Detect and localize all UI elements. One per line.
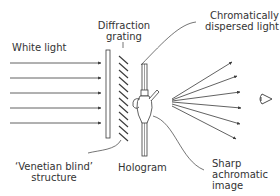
label-chromatic-line1: Chromatically bbox=[199, 10, 279, 21]
label-venetian-line1: ‘Venetian blind’ bbox=[14, 161, 94, 172]
label-white-light: White light bbox=[12, 42, 66, 53]
label-chromatic-line2: dispersed light bbox=[199, 21, 279, 32]
dispersed-rays bbox=[172, 62, 241, 139]
label-venetian-line2: structure bbox=[14, 172, 94, 183]
label-venetian-blind: ‘Venetian blind’ structure bbox=[14, 161, 94, 183]
label-hologram: Hologram bbox=[118, 162, 167, 173]
label-diffraction-line1: Diffraction bbox=[94, 20, 154, 31]
white-light-rays bbox=[10, 63, 101, 123]
label-diffraction-grating: Diffraction grating bbox=[94, 20, 154, 42]
diffraction-grating-plate bbox=[106, 50, 110, 138]
label-sharp-line3: image bbox=[212, 180, 268, 191]
label-sharp-achromatic: Sharp achromatic image bbox=[212, 158, 268, 191]
holographic-object bbox=[133, 90, 159, 123]
label-chromatically-dispersed: Chromatically dispersed light bbox=[199, 10, 279, 32]
eye-icon bbox=[260, 94, 272, 104]
venetian-blind-slats bbox=[119, 56, 128, 141]
leader-venetian bbox=[88, 140, 121, 153]
label-sharp-line2: achromatic bbox=[212, 169, 268, 180]
label-sharp-line1: Sharp bbox=[212, 158, 268, 169]
label-diffraction-line2: grating bbox=[94, 31, 154, 42]
